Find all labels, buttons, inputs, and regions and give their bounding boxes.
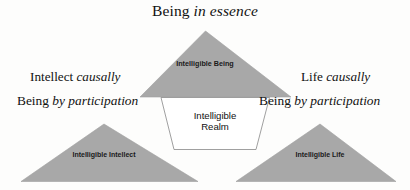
- caption-intellect-causally-plain: Intellect: [30, 69, 77, 84]
- caption-right-being-by-participation: Being by participation: [259, 94, 380, 108]
- caption-left-being-plain: Being: [17, 93, 52, 108]
- page-title: Being in essence: [0, 3, 410, 19]
- label-intelligible-intellect: Intelligible Intellect: [44, 151, 164, 159]
- diagram-canvas: Being in essence Intellect causally Life…: [0, 0, 410, 190]
- label-intelligible-realm-line2: Realm: [170, 121, 260, 132]
- caption-life-causally-plain: Life: [301, 69, 326, 84]
- caption-life-causally-italic: causally: [326, 69, 370, 84]
- page-title-plain: Being: [152, 2, 194, 19]
- label-intelligible-realm: Intelligible Realm: [170, 110, 260, 133]
- caption-right-being-plain: Being: [259, 93, 294, 108]
- caption-left-being-italic: by participation: [52, 93, 138, 108]
- caption-right-being-italic: by participation: [294, 93, 380, 108]
- caption-intellect-causally: Intellect causally: [30, 70, 120, 84]
- caption-intellect-causally-italic: causally: [77, 69, 121, 84]
- caption-life-causally: Life causally: [301, 70, 370, 84]
- label-intelligible-realm-line1: Intelligible: [194, 110, 237, 121]
- label-intelligible-life: Intelligible Life: [262, 151, 378, 159]
- caption-left-being-by-participation: Being by participation: [17, 94, 138, 108]
- page-title-italic: in essence: [194, 2, 258, 19]
- label-intelligible-being: Intelligible Being: [145, 60, 265, 68]
